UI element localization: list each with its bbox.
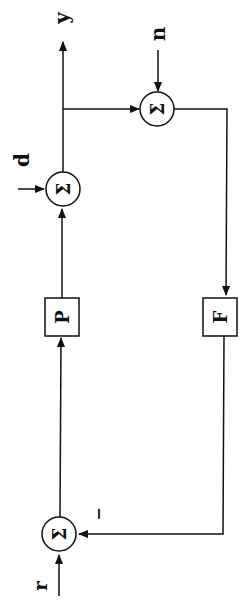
signal-line xyxy=(174,109,227,295)
sum-junction-d: Σ xyxy=(46,172,80,206)
noise-label: n xyxy=(146,26,170,41)
feedback-line xyxy=(79,336,224,534)
sigma-symbol: Σ xyxy=(49,528,70,541)
sum-junction-n: Σ xyxy=(140,92,174,126)
sigma-symbol: Σ xyxy=(53,183,74,196)
block-p: P xyxy=(45,298,79,336)
sigma-symbol: Σ xyxy=(147,103,168,116)
sum-junction-ref: Σ xyxy=(42,517,76,551)
feedback-sign: − xyxy=(89,507,108,520)
disturbance-label: d xyxy=(10,153,34,167)
block-diagram: Σ P d Σ y n Σ F − r xyxy=(0,0,246,608)
svg-text:P: P xyxy=(52,310,73,324)
svg-text:F: F xyxy=(210,310,231,323)
block-f: F xyxy=(203,298,237,336)
signal-line xyxy=(60,338,61,517)
output-label: y xyxy=(50,11,74,25)
reference-label: r xyxy=(30,581,51,591)
